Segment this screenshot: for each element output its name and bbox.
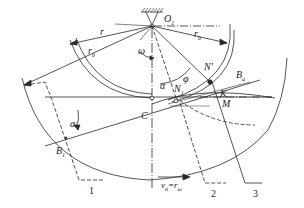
label-rb: rb (88, 46, 95, 58)
label-N1: N1 (174, 84, 184, 96)
label-alpha-left: α (70, 119, 75, 129)
label-Ba: Ba (236, 70, 245, 82)
diagram-drawing (0, 0, 304, 208)
label-B1: B1 (56, 146, 65, 158)
radius-r (70, 26, 152, 44)
label-Nprime: N' (204, 62, 213, 72)
point-N1 (174, 99, 178, 103)
label-O1: O1 (164, 14, 174, 26)
label-phi: φ (183, 74, 189, 84)
line-O1-Nprime (152, 26, 210, 82)
radius-rb-right (152, 26, 227, 43)
label-part-2: 2 (211, 189, 216, 199)
point-C (150, 96, 154, 100)
label-C: C (141, 111, 148, 121)
label-part-3: 3 (253, 189, 258, 199)
label-rb-right: rb (194, 29, 201, 41)
point-Nprime (208, 80, 212, 84)
label-velocity: vn=rω (161, 181, 182, 192)
label-alpha-top: α (160, 81, 165, 91)
outer-arc (22, 58, 287, 180)
ground-hatch (142, 8, 163, 12)
point-B1 (65, 137, 67, 139)
label-M: M (222, 99, 230, 109)
label-omega: ω (138, 46, 145, 56)
line-of-action (45, 80, 260, 146)
label-part-1: 1 (89, 186, 94, 196)
label-r: r (100, 27, 104, 37)
gear-rack-meshing-diagram: O1 r rb rb ω α φ N' N1 Ba K M C α B1 vn=… (0, 0, 304, 208)
